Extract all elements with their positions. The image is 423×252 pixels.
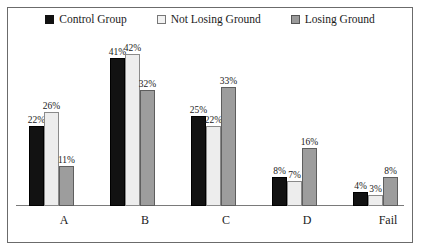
bar-a-not-losing-ground bbox=[44, 112, 59, 206]
bar-b-control-group bbox=[110, 58, 125, 206]
bar-value-b-not-losing-ground: 42% bbox=[124, 44, 141, 54]
bar-group-a: 22% 26% 11% A bbox=[29, 54, 99, 206]
bar-slot-d-control-group: 8% bbox=[272, 54, 287, 206]
legend-swatch-losing-ground-icon bbox=[291, 15, 300, 24]
bar-value-fail-not-losing-ground: 3% bbox=[369, 185, 382, 195]
chart-legend: Control Group Not Losing Ground Losing G… bbox=[8, 14, 412, 26]
bar-c-control-group bbox=[191, 116, 206, 206]
bar-slot-fail-losing-ground: 8% bbox=[383, 54, 398, 206]
bar-value-fail-losing-ground: 8% bbox=[384, 167, 397, 177]
bar-slot-b-control-group: 41% bbox=[110, 54, 125, 206]
bar-b-not-losing-ground bbox=[125, 54, 140, 206]
bar-c-not-losing-ground bbox=[206, 126, 221, 206]
bar-slot-fail-control-group: 4% bbox=[353, 54, 368, 206]
x-axis-label-b: B bbox=[110, 213, 180, 228]
legend-swatch-not-losing-ground-icon bbox=[157, 15, 166, 24]
bar-slot-a-not-losing-ground: 26% bbox=[44, 54, 59, 206]
bar-value-d-losing-ground: 16% bbox=[301, 138, 318, 148]
bar-value-a-not-losing-ground: 26% bbox=[43, 102, 60, 112]
bar-value-d-control-group: 8% bbox=[273, 167, 286, 177]
bar-value-a-losing-ground: 11% bbox=[58, 156, 75, 166]
x-axis-label-fail: Fail bbox=[353, 213, 423, 228]
legend-swatch-control-group-icon bbox=[45, 15, 54, 24]
x-axis-label-c: C bbox=[191, 213, 261, 228]
chart-container: Control Group Not Losing Ground Losing G… bbox=[7, 7, 413, 243]
bar-slot-fail-not-losing-ground: 3% bbox=[368, 54, 383, 206]
bar-fail-control-group bbox=[353, 192, 368, 206]
bar-slot-c-control-group: 25% bbox=[191, 54, 206, 206]
legend-item-losing-ground: Losing Ground bbox=[291, 14, 375, 26]
bar-slot-b-not-losing-ground: 42% bbox=[125, 54, 140, 206]
bar-slot-d-losing-ground: 16% bbox=[302, 54, 317, 206]
bar-b-losing-ground bbox=[140, 90, 155, 206]
bar-group-c: 25% 22% 33% C bbox=[191, 54, 261, 206]
bar-group-fail: 4% 3% 8% Fail bbox=[353, 54, 423, 206]
plot-area: 22% 26% 11% A 41% bbox=[16, 36, 404, 234]
bar-slot-c-not-losing-ground: 22% bbox=[206, 54, 221, 206]
legend-item-not-losing-ground: Not Losing Ground bbox=[157, 14, 261, 26]
bar-group-d: 8% 7% 16% D bbox=[272, 54, 342, 206]
bar-value-c-losing-ground: 33% bbox=[220, 77, 237, 87]
bar-slot-b-losing-ground: 32% bbox=[140, 54, 155, 206]
x-axis-label-d: D bbox=[272, 213, 342, 228]
bar-d-not-losing-ground bbox=[287, 181, 302, 206]
legend-item-control-group: Control Group bbox=[45, 14, 126, 26]
bar-value-d-not-losing-ground: 7% bbox=[288, 171, 301, 181]
bar-slot-c-losing-ground: 33% bbox=[221, 54, 236, 206]
bar-slot-a-losing-ground: 11% bbox=[59, 54, 74, 206]
bar-a-control-group bbox=[29, 126, 44, 206]
bar-fail-losing-ground bbox=[383, 177, 398, 206]
bar-slot-a-control-group: 22% bbox=[29, 54, 44, 206]
x-axis-label-a: A bbox=[29, 213, 99, 228]
bar-value-fail-control-group: 4% bbox=[354, 182, 367, 192]
legend-label-not-losing-ground: Not Losing Ground bbox=[171, 14, 261, 26]
bar-value-a-control-group: 22% bbox=[28, 116, 45, 126]
bar-value-b-losing-ground: 32% bbox=[139, 80, 156, 90]
bar-group-b: 41% 42% 32% B bbox=[110, 54, 180, 206]
bar-a-losing-ground bbox=[59, 166, 74, 206]
bar-fail-not-losing-ground bbox=[368, 195, 383, 206]
legend-label-losing-ground: Losing Ground bbox=[305, 14, 375, 26]
bar-slot-d-not-losing-ground: 7% bbox=[287, 54, 302, 206]
bar-d-control-group bbox=[272, 177, 287, 206]
bar-value-c-not-losing-ground: 22% bbox=[205, 116, 222, 126]
bar-d-losing-ground bbox=[302, 148, 317, 206]
bar-c-losing-ground bbox=[221, 87, 236, 206]
legend-label-control-group: Control Group bbox=[59, 14, 126, 26]
